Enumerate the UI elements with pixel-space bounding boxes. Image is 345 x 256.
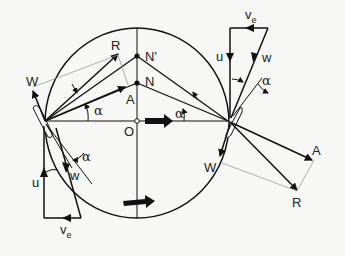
left-construction-line-r-a bbox=[118, 55, 128, 85]
right-upper-chord-line-2 bbox=[233, 78, 262, 116]
right-a-label: A bbox=[312, 143, 321, 158]
right-upper-alpha-label: α bbox=[262, 73, 271, 88]
right-alpha-label: α bbox=[175, 106, 184, 121]
turbine-diagram: O N' N R A W α α bbox=[0, 0, 345, 256]
right-construction-line-w-r bbox=[222, 163, 297, 191]
left-lower-alpha-label: α bbox=[82, 149, 91, 164]
right-w-velocity-label: w bbox=[261, 50, 272, 65]
left-ve-label: ve bbox=[60, 222, 72, 240]
center-point bbox=[135, 119, 140, 124]
right-w-label: W bbox=[204, 160, 217, 175]
left-lower-chord-line-2 bbox=[46, 124, 72, 168]
left-angle-tick bbox=[72, 84, 77, 93]
right-ve-label: ve bbox=[245, 7, 257, 25]
left-r-label: R bbox=[111, 38, 120, 53]
center-label: O bbox=[124, 124, 134, 139]
right-r-label: R bbox=[292, 195, 301, 210]
left-a-label: A bbox=[126, 92, 135, 107]
diagram-canvas: O N' N R A W α α bbox=[0, 0, 345, 256]
right-construction-line-r-a bbox=[297, 160, 314, 191]
right-lift-vector bbox=[230, 122, 312, 160]
left-resultant-vector bbox=[45, 54, 118, 121]
n-prime-label: N' bbox=[145, 49, 157, 64]
left-u-label: u bbox=[32, 175, 39, 190]
left-construction-line-w-r bbox=[33, 55, 118, 87]
right-velocity-triangle bbox=[226, 24, 268, 118]
right-u-label: u bbox=[216, 49, 223, 64]
left-w-label: W bbox=[26, 74, 39, 89]
left-alpha-arc bbox=[85, 104, 88, 121]
rotation-direction-icon bbox=[123, 195, 155, 208]
wind-direction-icon bbox=[145, 114, 173, 128]
left-alpha-label: α bbox=[94, 103, 103, 118]
right-resultant-vector bbox=[230, 122, 297, 190]
left-w-velocity-label: w bbox=[69, 168, 80, 183]
